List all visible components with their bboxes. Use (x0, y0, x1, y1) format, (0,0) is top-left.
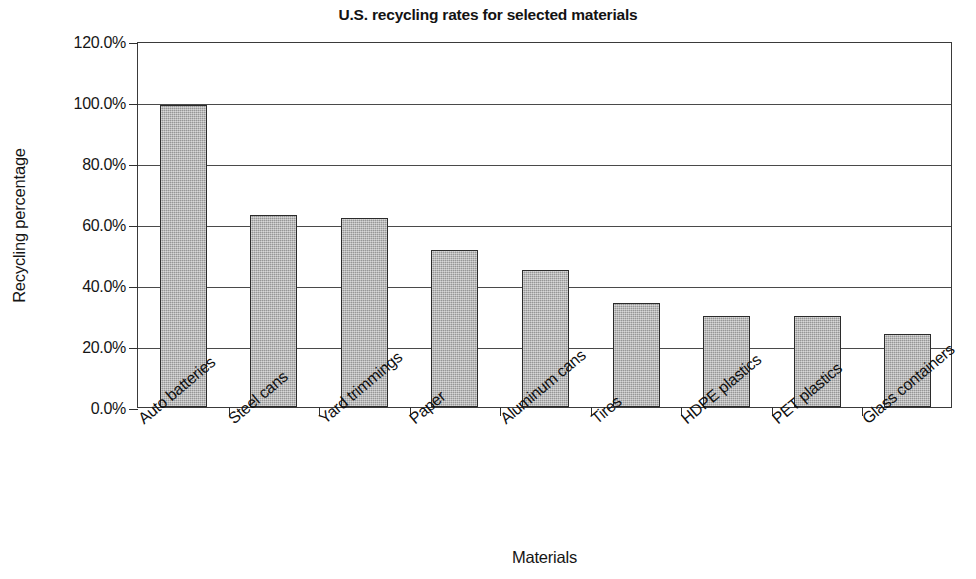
y-axis-tick-label: 60.0% (82, 217, 126, 235)
recycling-rates-bar-chart: U.S. recycling rates for selected materi… (0, 0, 976, 579)
y-axis-tick-label: 20.0% (82, 339, 126, 357)
y-axis-title-label: Recycling percentage (10, 148, 29, 303)
gridline (138, 165, 951, 166)
y-axis-tick (129, 43, 138, 44)
y-axis-tick-label: 120.0% (74, 34, 126, 52)
y-axis-tick (129, 165, 138, 166)
y-axis-tick (129, 409, 138, 410)
gridline (138, 104, 951, 105)
chart-title: U.S. recycling rates for selected materi… (0, 6, 976, 24)
y-axis-tick-label: 40.0% (82, 278, 126, 296)
y-axis-tick (129, 348, 138, 349)
x-axis-title: Materials (137, 548, 952, 567)
y-axis-title: Recycling percentage (6, 42, 32, 408)
y-axis-tick (129, 226, 138, 227)
y-axis-tick (129, 104, 138, 105)
y-axis-tick-label: 80.0% (82, 156, 126, 174)
plot-area: 0.0%20.0%40.0%60.0%80.0%100.0%120.0% (137, 42, 952, 408)
y-axis-tick-label: 100.0% (74, 95, 126, 113)
y-axis-tick-label: 0.0% (91, 400, 126, 418)
bar (431, 250, 478, 407)
bar (613, 303, 660, 407)
y-axis-tick (129, 287, 138, 288)
